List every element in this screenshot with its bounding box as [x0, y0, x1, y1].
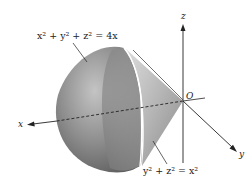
y-axis [183, 98, 237, 152]
sphere-leader-line [73, 43, 87, 62]
sphere-cone-figure: x² + y² + z² = 4x y² + z² = x² z x y O [0, 0, 251, 188]
y-axis-label: y [239, 150, 244, 159]
origin-label: O [186, 92, 193, 101]
cone-equation-label: y² + z² = x² [143, 166, 198, 176]
z-axis [181, 24, 186, 163]
cone-leader-line [153, 141, 167, 164]
x-axis-label: x [18, 120, 23, 129]
z-axis-label: z [181, 12, 186, 21]
sphere-equation-label: x² + y² + z² = 4x [37, 31, 118, 41]
figure-canvas [0, 0, 251, 188]
